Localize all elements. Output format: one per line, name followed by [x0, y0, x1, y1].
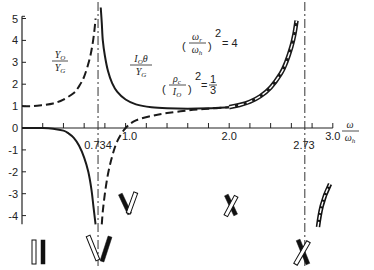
y-tick-label: 1: [12, 100, 18, 112]
x-tick-label: 2.0: [222, 130, 237, 142]
y-tick-label: 5: [12, 13, 18, 25]
svg-text:YG: YG: [136, 66, 147, 79]
filled-bar-icon: [100, 236, 112, 262]
annotation-y0-over-yg: YO YG: [52, 49, 68, 75]
y-tick-label: 2: [12, 78, 18, 90]
svg-text:IOθ: IOθ: [133, 53, 147, 66]
svg-text:): ): [188, 83, 192, 95]
svg-text:=: =: [201, 79, 207, 91]
svg-text:): ): [208, 40, 212, 52]
annotation-omega-ratio: ( ωr ωh ) 2 = 4: [182, 27, 238, 57]
open-bar-icon: [32, 240, 36, 264]
svg-text:ωh: ωh: [192, 44, 203, 57]
x-tick-label: 3.0: [325, 130, 340, 142]
svg-text:3: 3: [210, 84, 216, 96]
x-axis-label: ω ωh: [342, 119, 359, 145]
svg-text:2: 2: [215, 27, 221, 39]
marker-label-0734: 0.734: [84, 139, 112, 151]
svg-text:IO: IO: [172, 86, 181, 99]
svg-text:ωr: ωr: [192, 31, 202, 44]
annotation-i0theta-over-yg: IOθ YG: [130, 53, 152, 79]
x-label-numerator: ω: [346, 119, 353, 130]
x-label-denominator: ωh: [345, 132, 356, 145]
svg-text:= 4: = 4: [222, 37, 238, 49]
y-tick-label: -3: [8, 188, 18, 200]
marker-label-273: 2.73: [293, 139, 314, 151]
y-tick-label: 4: [12, 34, 18, 46]
svg-text:ρc: ρc: [172, 73, 182, 86]
y-tick-label: -2: [8, 166, 18, 178]
x-tick-label: 1.0: [122, 130, 137, 142]
svg-text:YO: YO: [55, 49, 66, 62]
y-tick-label: -4: [8, 210, 18, 222]
curve-dashed: [102, 107, 229, 224]
curves: [22, 8, 297, 225]
figure: 543210-1-2-3-41.02.03.0 ω ωh 0.734 2.73 …: [0, 0, 374, 270]
svg-text:YG: YG: [55, 62, 66, 75]
chart-canvas: 543210-1-2-3-41.02.03.0 ω ωh 0.734 2.73 …: [0, 0, 374, 270]
open-bar-icon: [126, 192, 137, 214]
annotation-rho-ratio: ( ρc IO ) 2 = 1 3: [162, 70, 217, 99]
svg-text:(: (: [182, 40, 186, 52]
mode-shape-symbols: [32, 184, 330, 265]
svg-text:(: (: [162, 83, 166, 95]
y-tick-label: -1: [8, 144, 18, 156]
y-tick-label: 0: [12, 122, 18, 134]
filled-bar-icon: [41, 240, 45, 264]
double-curve-icon: [318, 184, 330, 227]
y-tick-label: 3: [12, 56, 18, 68]
